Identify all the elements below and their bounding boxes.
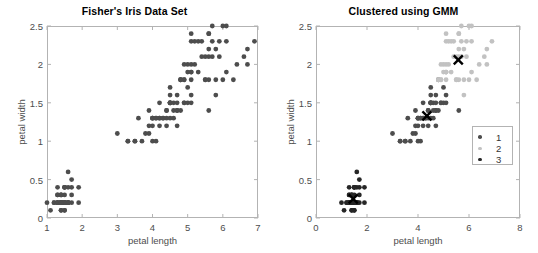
x-tick-label: 6 <box>220 222 225 233</box>
y-tick-label: 1 <box>38 136 43 147</box>
x-tick-label: 1 <box>44 222 49 233</box>
series-iris <box>45 24 257 213</box>
y-tick-label: 2 <box>38 59 43 70</box>
y-tick-label: 1.5 <box>30 97 43 108</box>
legend-label: 1 <box>496 132 501 143</box>
legend-dot-icon <box>478 158 482 162</box>
x-tick-label: 5 <box>185 222 190 233</box>
y-tick-label: 0 <box>38 213 43 224</box>
cluster-legend[interactable]: 123 <box>472 126 513 165</box>
x-axis-label-left: petal length <box>128 235 177 246</box>
x-tick-label: 3 <box>115 222 120 233</box>
legend-dot-icon <box>478 147 482 151</box>
x-tick-label: 0 <box>313 222 318 233</box>
x-tick-label: 2 <box>80 222 85 233</box>
panel-fisher-iris: Fisher's Iris Data Set 123456700.511.522… <box>0 0 269 253</box>
x-tick-label: 4 <box>415 222 420 233</box>
panel-gmm-clusters: Clustered using GMM 0246800.511.522.5 pe… <box>269 0 538 253</box>
legend-marker-icon <box>473 135 487 139</box>
series-1 <box>390 77 461 143</box>
figure-canvas: Fisher's Iris Data Set 123456700.511.522… <box>0 0 538 253</box>
y-tick-label: 1.5 <box>299 97 312 108</box>
legend-item-3[interactable]: 3 <box>473 154 512 166</box>
y-tick-label: 1 <box>307 136 312 147</box>
legend-item-1[interactable]: 1 <box>473 131 512 143</box>
y-tick-label: 2.5 <box>299 21 312 32</box>
series-3 <box>339 170 367 213</box>
x-tick-label: 8 <box>517 222 522 233</box>
x-tick-label: 2 <box>364 222 369 233</box>
legend-label: 3 <box>496 154 501 165</box>
x-tick-label: 7 <box>255 222 260 233</box>
y-tick-label: 0.5 <box>299 174 312 185</box>
y-axis-label-right: petal width <box>285 99 296 144</box>
y-tick-label: 2 <box>307 59 312 70</box>
x-tick-label: 4 <box>150 222 155 233</box>
legend-marker-icon <box>473 158 487 162</box>
legend-label: 2 <box>496 143 501 154</box>
y-tick-label: 0 <box>307 213 312 224</box>
x-tick-label: 6 <box>466 222 471 233</box>
y-axis-label-left: petal width <box>16 99 27 144</box>
legend-dot-icon <box>478 135 482 139</box>
y-tick-label: 0.5 <box>30 174 43 185</box>
x-axis-label-right: petal length <box>393 235 442 246</box>
y-tick-label: 2.5 <box>30 21 43 32</box>
legend-item-2[interactable]: 2 <box>473 142 512 154</box>
legend-marker-icon <box>473 147 487 151</box>
